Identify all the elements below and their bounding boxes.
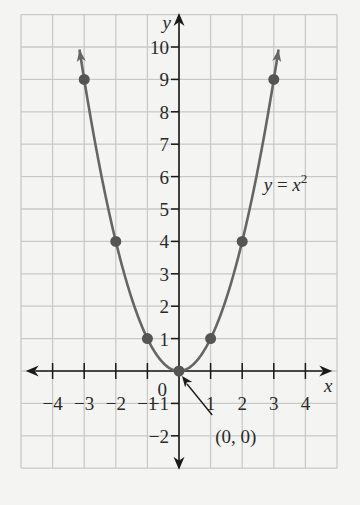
annotation-arrow-icon: [182, 376, 192, 387]
data-point: [142, 333, 153, 344]
y-tick-label: 9: [160, 69, 170, 90]
x-tick-label: 4: [301, 393, 311, 414]
data-point: [268, 74, 279, 85]
parabola-chart: −4−3−2−11234−2−1123456789100xy y = x2(0,…: [0, 0, 360, 505]
x-tick-label: 3: [269, 393, 279, 414]
y-axis-label: y: [161, 12, 172, 33]
y-tick-label: 3: [160, 264, 170, 285]
y-tick-label: 8: [160, 102, 170, 123]
x-tick-label: 1: [206, 393, 216, 414]
origin-point-label: (0, 0): [215, 426, 256, 448]
x-axis-label: x: [323, 375, 333, 396]
data-point: [110, 236, 121, 247]
equation-label: y = x2: [262, 171, 308, 195]
y-tick-label: 6: [160, 167, 170, 188]
y-tick-label: 5: [160, 199, 170, 220]
y-tick-label: 4: [160, 231, 170, 252]
data-point: [174, 366, 185, 377]
data-point: [79, 74, 90, 85]
data-point: [237, 236, 248, 247]
y-tick-label: 2: [160, 296, 170, 317]
origin-label: 0: [158, 379, 168, 400]
x-tick-label: 2: [237, 393, 247, 414]
x-tick-label: −4: [42, 393, 63, 414]
data-point: [205, 333, 216, 344]
y-tick-label: 10: [150, 37, 169, 58]
x-tick-label: −2: [106, 393, 126, 414]
y-tick-label: −2: [149, 426, 169, 447]
y-tick-label: 1: [160, 329, 170, 350]
x-tick-label: −3: [74, 393, 94, 414]
y-tick-label: 7: [160, 134, 170, 155]
